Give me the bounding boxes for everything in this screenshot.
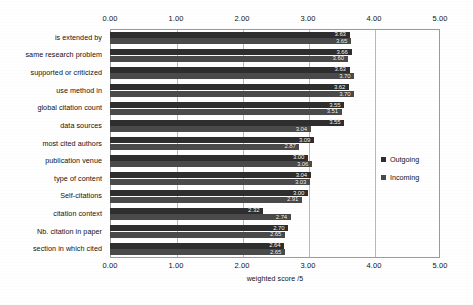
bar-outgoing (110, 225, 288, 231)
chart-legend: OutgoingIncoming (381, 155, 451, 191)
x-axis-title: weighted score /5 (110, 275, 440, 282)
bottom-axis-tick-labels: 0.001.002.003.004.005.00 (0, 261, 473, 273)
x-tick-label: 5.00 (433, 14, 448, 23)
category-label: type of content (54, 174, 102, 183)
x-tick-label: 1.00 (169, 261, 184, 270)
category-label: section in which cited (33, 244, 102, 253)
bar-value-label: 2.74 (276, 214, 287, 220)
bar-incoming (110, 38, 351, 44)
bar-value-label: 2.65 (270, 231, 281, 237)
bar-outgoing (110, 67, 350, 73)
bar-value-label: 3.04 (296, 126, 307, 132)
legend-item: Outgoing (381, 155, 451, 164)
category-label: Nb. citation in paper (37, 227, 102, 236)
category-label: same research problem (25, 50, 102, 59)
bar-value-label: 3.63 (335, 31, 346, 37)
x-tick-label: 3.00 (301, 14, 316, 23)
bar-incoming (110, 249, 285, 255)
bar-incoming (110, 91, 354, 97)
bar-value-label: 3.60 (333, 55, 344, 61)
bar-value-label: 2.91 (287, 196, 298, 202)
category-label: publication venue (45, 156, 102, 165)
bar-outgoing (110, 155, 308, 161)
bar-outgoing (110, 172, 311, 178)
x-tick-label: 3.00 (301, 261, 316, 270)
x-tick-label: 2.00 (235, 261, 250, 270)
bar-value-label: 3.04 (296, 172, 307, 178)
bar-outgoing (110, 84, 349, 90)
bar-incoming (110, 161, 312, 167)
bar-value-label: 3.55 (329, 102, 340, 108)
x-tick-label: 0.00 (103, 261, 118, 270)
bar-value-label: 3.70 (339, 73, 350, 79)
category-label: use method in (56, 86, 102, 95)
bar-value-label: 3.62 (334, 84, 345, 90)
bar-value-label: 3.03 (295, 179, 306, 185)
bar-value-label: 2.87 (284, 143, 295, 149)
bar-incoming (110, 109, 342, 115)
legend-item: Incoming (381, 173, 451, 182)
x-tick-label: 2.00 (235, 14, 250, 23)
bar-value-label: 3.06 (297, 161, 308, 167)
bar-outgoing (110, 243, 284, 249)
bar-value-label: 2.65 (270, 249, 281, 255)
bar-value-label: 3.55 (329, 119, 340, 125)
bar-outgoing (110, 208, 263, 214)
bars-layer: 3.633.653.663.603.633.703.623.703.553.51… (110, 29, 440, 258)
bar-value-label: 3.00 (293, 154, 304, 160)
bar-outgoing (110, 102, 344, 108)
bar-incoming (110, 214, 291, 220)
category-label: Self-citations (60, 191, 102, 200)
bar-incoming (110, 179, 310, 185)
bar-value-label: 3.63 (335, 66, 346, 72)
bar-incoming (110, 56, 348, 62)
category-label: supported or criticized (31, 68, 102, 77)
bar-outgoing (110, 49, 352, 55)
category-label: citation context (53, 209, 102, 218)
x-tick-label: 0.00 (103, 14, 118, 23)
bar-chart: 0.001.002.003.004.005.00 is extended bys… (0, 0, 473, 305)
bar-value-label: 2.70 (273, 225, 284, 231)
category-label: is extended by (55, 33, 102, 42)
category-label: data sources (60, 121, 102, 130)
bar-value-label: 3.70 (339, 91, 350, 97)
category-label: global citation count (37, 103, 102, 112)
bar-incoming (110, 197, 302, 203)
bar-incoming (110, 73, 354, 79)
legend-swatch (381, 175, 386, 180)
category-axis-labels: is extended bysame research problemsuppo… (0, 29, 106, 258)
x-tick-label: 4.00 (367, 14, 382, 23)
x-tick-label: 1.00 (169, 14, 184, 23)
top-axis-tick-labels: 0.001.002.003.004.005.00 (0, 14, 473, 26)
bar-outgoing (110, 120, 344, 126)
legend-label: Incoming (390, 173, 419, 182)
bar-value-label: 3.65 (336, 38, 347, 44)
bar-outgoing (110, 32, 350, 38)
bar-incoming (110, 126, 311, 132)
bar-value-label: 3.66 (337, 49, 348, 55)
bar-value-label: 2.64 (269, 242, 280, 248)
bar-value-label: 3.00 (293, 190, 304, 196)
bar-value-label: 2.32 (248, 207, 259, 213)
legend-label: Outgoing (390, 155, 419, 164)
x-tick-label: 4.00 (367, 261, 382, 270)
legend-swatch (381, 157, 386, 162)
bar-incoming (110, 144, 299, 150)
bar-outgoing (110, 190, 308, 196)
x-tick-label: 5.00 (433, 261, 448, 270)
bar-value-label: 3.51 (327, 108, 338, 114)
bar-value-label: 3.09 (299, 137, 310, 143)
category-label: most cited authors (42, 139, 102, 148)
bar-incoming (110, 232, 285, 238)
